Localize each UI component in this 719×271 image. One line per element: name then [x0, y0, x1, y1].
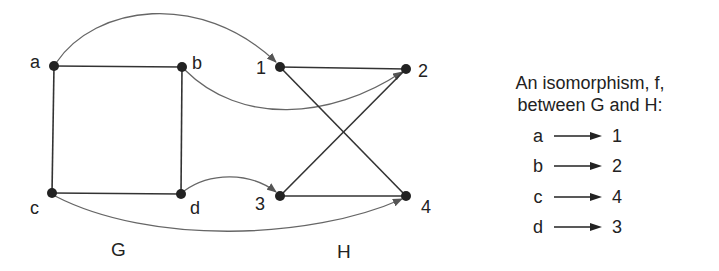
node-a: [49, 61, 59, 71]
right-arrow-icon: [554, 161, 604, 171]
node-label-a: a: [30, 52, 41, 72]
arc-a-to-1: [56, 14, 276, 63]
graph-g-name: G: [111, 239, 126, 260]
node-label-c: c: [30, 198, 39, 218]
arc-d-to-3: [184, 177, 276, 192]
edge-a-c: [52, 66, 54, 193]
mapping-row: a 1: [530, 125, 622, 147]
node-d: [176, 189, 186, 199]
node-3: [275, 191, 285, 201]
mapping-to: 2: [612, 156, 622, 177]
mapping-row: b 2: [530, 155, 622, 177]
mapping-to: 4: [612, 187, 622, 208]
right-arrow-icon: [554, 131, 604, 141]
node-label-4: 4: [421, 197, 431, 217]
right-arrow-icon: [554, 192, 604, 202]
mapping-to: 3: [612, 217, 622, 238]
edge-a-b: [54, 66, 182, 67]
node-label-3: 3: [255, 194, 265, 214]
node-label-2: 2: [418, 61, 428, 81]
node-4: [401, 191, 411, 201]
node-b: [177, 62, 187, 72]
arc-c-to-4: [55, 196, 402, 231]
isomorphism-caption: An isomorphism, f, between G and H:: [470, 72, 710, 116]
caption-line-1: An isomorphism, f,: [470, 72, 710, 94]
arc-b-to-2: [185, 70, 402, 110]
mapping-from: d: [530, 217, 546, 238]
nodes: [47, 61, 411, 201]
edge-c-d: [52, 193, 181, 194]
node-c: [47, 188, 57, 198]
caption-line-2: between G and H:: [470, 94, 710, 116]
edge-1-2: [280, 67, 406, 69]
graph-h-name: H: [337, 241, 351, 262]
mapping-to: 1: [612, 126, 622, 147]
right-arrow-icon: [554, 222, 604, 232]
node-label-b: b: [192, 53, 202, 73]
node-label-d: d: [190, 198, 200, 218]
node-2: [401, 64, 411, 74]
graph-h-edges: [280, 67, 406, 196]
mapping-arcs: [55, 14, 402, 232]
graph-g-edges: [52, 66, 182, 194]
node-1: [275, 62, 285, 72]
mapping-row: d 3: [530, 216, 622, 238]
mapping-from: a: [530, 126, 546, 147]
mapping-from: c: [530, 187, 546, 208]
mapping-row: c 4: [530, 186, 622, 208]
mapping-from: b: [530, 156, 546, 177]
node-label-1: 1: [256, 58, 266, 78]
edge-b-d: [181, 67, 182, 194]
